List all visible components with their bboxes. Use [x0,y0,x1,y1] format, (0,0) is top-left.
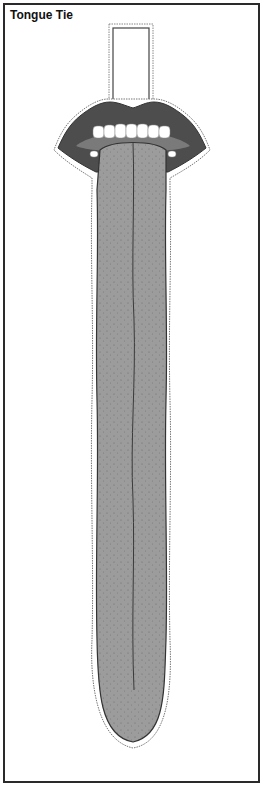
tongue-strip [96,143,166,743]
tongue-tie-illustration [0,0,267,785]
tab-slot [109,24,153,102]
